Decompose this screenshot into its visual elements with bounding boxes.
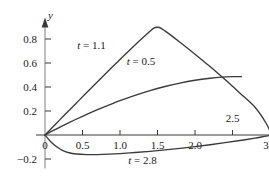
x-annotation-2-5: 2.5 [226,112,240,124]
x-tick-label-1.0: 1.0 [113,139,127,151]
y-tick-label-0.2: 0.2 [23,105,37,117]
curve-label-2-8: t = 2.8 [128,154,157,166]
y-tick-label-0.6: 0.6 [23,57,37,69]
x-tick-label-1.5: 1.5 [151,139,165,151]
figure-canvas: xy00.51.01.52.03.0−0.20.20.40.60.8t = 1.… [0,0,269,182]
x-tick-label-0: 0 [42,139,48,151]
curve-label-0-5: t = 0.5 [127,55,156,67]
y-tick-label-0.8: 0.8 [23,33,37,45]
parametric-curves-plot: xy00.51.01.52.03.0−0.20.20.40.60.8t = 1.… [0,0,269,182]
curve-label-1-1: t = 1.1 [77,39,106,51]
y-tick-label--0.2: −0.2 [17,153,37,165]
y-axis-label: y [47,9,53,21]
y-tick-label-0.4: 0.4 [23,81,37,93]
x-tick-label-0.5: 0.5 [76,139,90,151]
x-tick-label-2.0: 2.0 [188,139,202,151]
x-tick-label-3.0: 3.0 [263,139,269,151]
